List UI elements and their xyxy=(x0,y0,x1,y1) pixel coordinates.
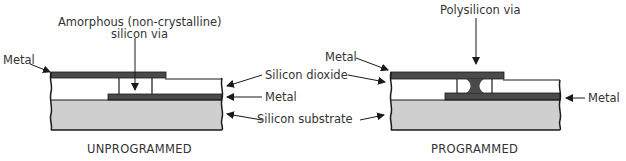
dioxide-arrow-right xyxy=(348,75,385,82)
center-metal-label: Metal xyxy=(265,91,297,103)
break-line-left xyxy=(390,72,391,130)
break-line-right xyxy=(559,80,560,130)
silicon-dioxide-label: Silicon dioxide xyxy=(265,69,348,81)
left-metal-label: Metal xyxy=(3,54,35,66)
dioxide-arrow-left xyxy=(227,75,262,86)
bottom-metal-layer xyxy=(445,93,560,100)
top-metal-layer xyxy=(51,72,166,78)
right-top-metal-arrow xyxy=(356,58,388,70)
break-line-right xyxy=(221,78,222,130)
silicon-substrate-layer xyxy=(391,100,560,130)
top-metal-layer xyxy=(391,72,504,79)
right-bottom-metal-label: Metal xyxy=(588,92,620,104)
bottom-metal-layer xyxy=(108,94,222,100)
break-line-left xyxy=(50,72,51,130)
programmed-cross-section xyxy=(390,72,560,130)
unprogrammed-cross-section xyxy=(50,72,222,130)
amorphous-via-label-line2: silicon via xyxy=(111,28,168,40)
silicon-substrate-layer xyxy=(51,100,222,130)
substrate-arrow-right xyxy=(360,115,384,120)
right-top-metal-label: Metal xyxy=(325,51,357,63)
silicon-substrate-label: Silicon substrate xyxy=(257,113,353,125)
programmed-caption: PROGRAMMED xyxy=(431,142,518,156)
unprogrammed-caption: UNPROGRAMMED xyxy=(87,142,192,156)
polysilicon-via-label: Polysilicon via xyxy=(440,4,521,16)
